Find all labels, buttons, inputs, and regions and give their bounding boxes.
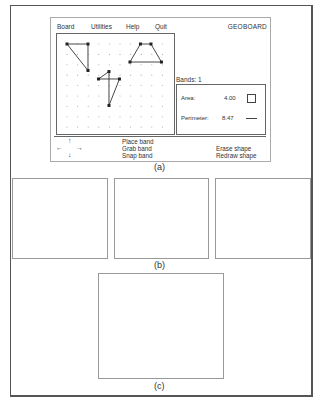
arrow-up-icon[interactable]: ↑ bbox=[68, 137, 72, 144]
square-icon bbox=[247, 94, 256, 103]
cmd-place-band[interactable]: Place band bbox=[122, 138, 154, 145]
divider bbox=[54, 136, 266, 137]
line-icon bbox=[246, 118, 257, 119]
cmd-grab-band[interactable]: Grab band bbox=[122, 145, 152, 152]
bands-count: Bands: 1 bbox=[176, 76, 202, 83]
arrow-down-icon[interactable]: ↓ bbox=[68, 151, 72, 158]
cmd-erase-shape[interactable]: Erase shape bbox=[216, 145, 251, 152]
caption-b: (b) bbox=[154, 260, 165, 270]
board-b3 bbox=[215, 178, 311, 259]
caption-a: (a) bbox=[154, 162, 165, 172]
area-value: 4.00 bbox=[224, 95, 236, 101]
area-label: Area: bbox=[181, 95, 195, 101]
board-b2 bbox=[114, 178, 209, 259]
board-b1 bbox=[12, 178, 108, 259]
caption-c: (c) bbox=[154, 381, 165, 391]
perimeter-value: 8.47 bbox=[222, 115, 234, 121]
board-c bbox=[98, 273, 224, 379]
cmd-redraw-shape[interactable]: Redraw shape bbox=[216, 152, 257, 159]
perimeter-label: Perimeter: bbox=[181, 115, 209, 121]
arrow-right-icon[interactable]: → bbox=[76, 144, 83, 151]
arrow-left-icon[interactable]: ← bbox=[56, 144, 63, 151]
cmd-snap-band[interactable]: Snap band bbox=[122, 152, 152, 159]
measurements-panel bbox=[176, 84, 266, 135]
